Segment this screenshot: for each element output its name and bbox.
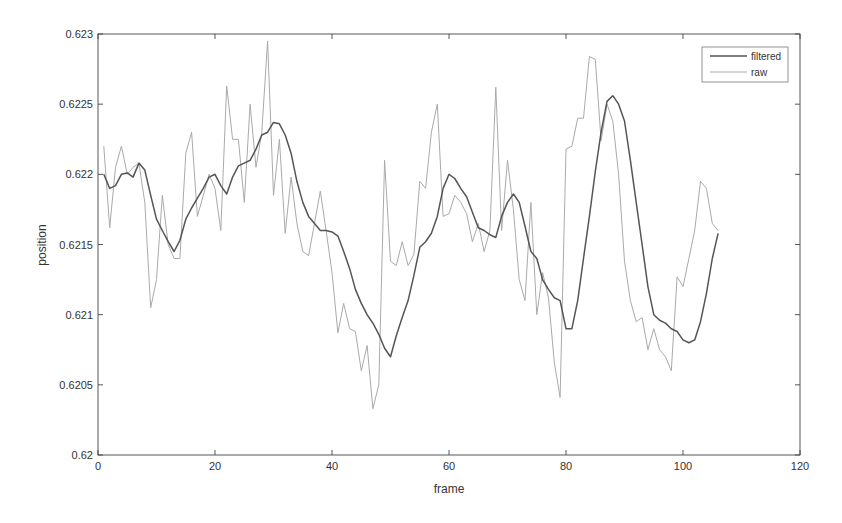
x-tick-label: 100 [674,460,692,472]
y-axis-label: position [35,224,49,265]
legend-label-raw: raw [751,67,768,78]
plot-area [104,41,718,409]
x-tick-label: 120 [791,460,809,472]
x-tick-label: 80 [560,460,572,472]
y-tick-label: 0.622 [65,168,93,180]
y-tick-label: 0.6215 [59,239,93,251]
x-tick-label: 0 [95,460,101,472]
series-filtered [104,96,718,357]
axes: 0204060801001200.620.62050.6210.62150.62… [59,28,809,472]
legend-label-filtered: filtered [751,51,781,62]
y-tick-label: 0.62 [72,449,93,461]
y-tick-label: 0.623 [65,28,93,40]
axes-frame [98,34,800,455]
x-tick-label: 60 [443,460,455,472]
x-tick-label: 40 [326,460,338,472]
y-tick-label: 0.6205 [59,379,93,391]
line-chart: 0204060801001200.620.62050.6210.62150.62… [0,0,842,523]
y-tick-label: 0.6225 [59,98,93,110]
y-tick-label: 0.621 [65,309,93,321]
legend: filtered raw [702,47,788,82]
x-tick-label: 20 [209,460,221,472]
x-axis-label: frame [434,482,465,496]
series-raw [104,41,718,409]
